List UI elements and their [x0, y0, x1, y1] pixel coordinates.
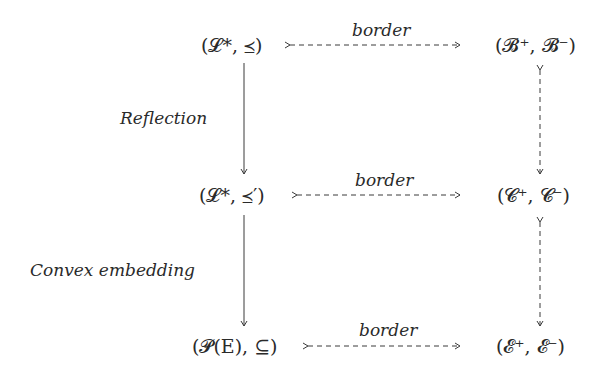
label-border-middle: border	[355, 172, 413, 189]
label-convex-embedding: Convex embedding	[30, 262, 195, 279]
node-b-pair: (𝓑⁺, 𝓑⁻)	[495, 36, 576, 55]
node-c-pair: (𝓒⁺, 𝓒⁻)	[497, 186, 570, 205]
node-l-star-order: (𝓛*, ⪯)	[201, 36, 262, 55]
label-border-top: border	[352, 22, 410, 39]
label-border-bottom: border	[359, 322, 417, 339]
node-l-star-order-prime: (𝓛*, ⪯′)	[199, 186, 265, 205]
node-powerset: (𝓟(E), ⊆)	[192, 337, 278, 356]
node-e-pair: (𝓔⁺, 𝓔⁻)	[496, 337, 565, 356]
label-reflection: Reflection	[120, 110, 207, 127]
